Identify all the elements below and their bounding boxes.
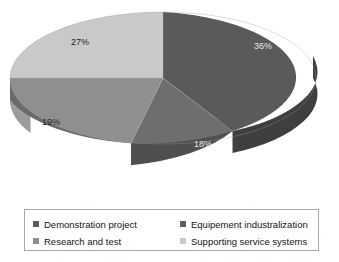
chart-legend: Demonstration project Equipement industr… — [24, 209, 319, 251]
legend-item-supporting-service-systems[interactable]: Supporting service systems — [180, 234, 307, 248]
pie-value-label-demonstration-project: 36% — [254, 41, 272, 51]
pie-value-label-supporting-service-systems: 27% — [71, 37, 89, 47]
legend-item-equipement-industralization[interactable]: Equipement industralization — [180, 217, 308, 231]
legend-swatch-icon-equipement-industralization — [180, 221, 186, 227]
legend-item-research-and-test[interactable]: Research and test — [33, 234, 121, 248]
legend-item-demonstration-project[interactable]: Demonstration project — [33, 217, 137, 231]
pie-value-label-equipement-industralization: 18% — [194, 139, 212, 149]
legend-swatch-icon-demonstration-project — [33, 221, 39, 227]
pie-value-label-research-and-test: 19% — [42, 117, 60, 127]
pie-chart-figure: 36% 18% 19% 27% Demonstration project Eq… — [0, 0, 339, 262]
pie-chart-plot-area: 36% 18% 19% 27% — [0, 0, 339, 205]
legend-label-equipement-industralization: Equipement industralization — [191, 219, 308, 230]
legend-label-research-and-test: Research and test — [44, 236, 121, 247]
pie-chart-svg — [0, 0, 339, 205]
legend-swatch-icon-research-and-test — [33, 238, 39, 244]
legend-swatch-icon-supporting-service-systems — [180, 238, 186, 244]
legend-label-demonstration-project: Demonstration project — [44, 219, 137, 230]
legend-label-supporting-service-systems: Supporting service systems — [191, 236, 307, 247]
